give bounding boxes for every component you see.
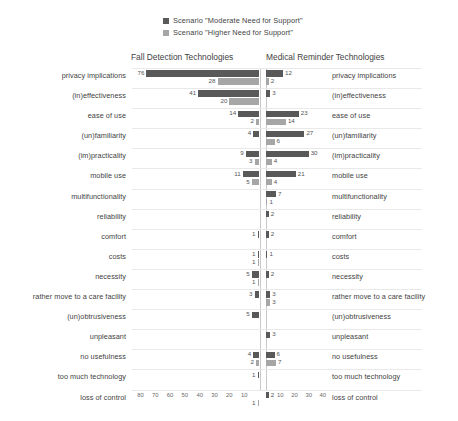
bar-value-moderate: 11 [234,171,240,177]
chart-row: (un)obtrusiveness(un)obtrusiveness5 [0,309,458,329]
bars-medical-reminder: 214 [266,169,330,187]
bar-value-moderate: 1 [269,251,272,257]
x-tick-left: 50 [182,392,189,398]
bar-value-higher: 1 [252,279,255,285]
bar-value-higher: 3 [272,299,275,305]
bar-higher [258,259,259,265]
bar-value-higher: 20 [220,98,227,104]
bar-moderate [266,211,269,217]
category-label-right: (im)practicality [332,151,456,160]
bar-moderate [255,291,259,297]
bars-medical-reminder: 2314 [266,109,330,127]
bar-moderate [266,131,304,137]
category-label-right: costs [332,252,456,261]
bar-moderate [266,231,269,237]
bar-moderate [258,231,259,237]
bar-value-moderate: 9 [240,150,243,156]
bar-higher [266,179,272,185]
bar-value-moderate: 21 [298,171,305,177]
bar-higher [218,78,260,84]
bar-higher [266,159,272,165]
x-tick-left: 20 [226,392,233,398]
legend-label-higher: Scenario "Higher Need for Support" [173,28,293,37]
bar-value-moderate: 1 [252,231,255,237]
category-label-right: rather move to a care facility [332,292,456,301]
category-label-right: multifunctionality [332,192,456,201]
bar-moderate [258,251,259,257]
bars-fall-detection: 7628 [133,69,259,87]
bar-higher [256,119,259,125]
bar-value-moderate: 3 [249,291,252,297]
bar-higher [266,139,275,145]
bars-fall-detection: 11 [133,250,259,268]
plot-area: privacy implicationsprivacy implications… [0,68,458,390]
bar-moderate [146,70,259,76]
bar-value-higher: 4 [274,158,277,164]
bar-moderate [266,271,269,277]
bar-value-moderate: 2 [271,231,274,237]
bar-moderate [266,171,296,177]
bar-value-higher: 2 [271,78,274,84]
bar-moderate [246,151,259,157]
bar-value-moderate: 3 [272,291,275,297]
category-label-left: (in)effectiveness [0,91,126,100]
category-label-right: (un)obtrusiveness [332,312,456,321]
bars-medical-reminder: 3 [266,330,330,348]
x-tick-left: 30 [211,392,218,398]
bar-value-moderate: 6 [277,351,280,357]
panel-title-fall-detection: Fall Detection Technologies [131,52,233,62]
bar-moderate [258,372,259,378]
bars-medical-reminder: 276 [266,129,330,147]
bars-fall-detection [133,330,259,348]
bar-value-higher: 7 [278,359,281,365]
bars-fall-detection: 115 [133,169,259,187]
x-tick-right: 40 [320,392,327,398]
bar-higher [256,360,259,366]
bar-moderate [253,352,259,358]
legend-swatch-higher [163,30,169,36]
bars-fall-detection: 3 [133,290,259,308]
x-tick-right: 30 [305,392,312,398]
category-label-right: (in)effectiveness [332,91,456,100]
bar-moderate [252,312,259,318]
chart-legend: Scenario "Moderate Need for Support" Sce… [163,16,333,37]
bar-higher [255,159,259,165]
bar-value-moderate: 1 [252,251,255,257]
bars-medical-reminder: 1 [266,250,330,268]
category-label-left: ease of use [0,111,126,120]
category-label-right: reliability [332,212,456,221]
bar-higher [258,279,259,285]
chart-row: ease of useease of use1422314 [0,108,458,128]
bar-higher [266,299,270,305]
category-label-right: unpleasant [332,332,456,341]
panel-title-medical-reminder: Medical Reminder Technologies [266,52,385,62]
bar-value-moderate: 4 [248,130,251,136]
category-label-right: privacy implications [332,71,456,80]
legend-label-moderate: Scenario "Moderate Need for Support" [173,16,303,25]
bar-value-higher: 3 [249,158,252,164]
chart-row: costscosts111 [0,249,458,269]
x-tick-left: 60 [167,392,174,398]
bars-medical-reminder: 2 [266,270,330,288]
bars-medical-reminder: 33 [266,290,330,308]
bar-value-moderate: 7 [278,191,281,197]
bar-moderate [266,70,283,76]
bars-fall-detection: 1 [133,230,259,248]
bars-medical-reminder: 122 [266,69,330,87]
bars-medical-reminder [266,370,330,388]
bar-moderate [266,191,276,197]
bars-fall-detection: 51 [133,270,259,288]
x-axis-right: 10203040 [266,392,330,406]
bar-value-higher: 1 [252,259,255,265]
bar-moderate [253,131,259,137]
x-tick-left: 40 [196,392,203,398]
bar-higher [229,98,259,104]
bar-moderate [243,171,259,177]
x-tick-left: 80 [137,392,144,398]
bars-medical-reminder: 71 [266,190,330,208]
category-label-right: mobile use [332,171,456,180]
chart-row: privacy implicationsprivacy implications… [0,68,458,88]
bar-value-moderate: 23 [301,110,308,116]
bar-value-higher: 4 [274,179,277,185]
bars-medical-reminder: 2 [266,210,330,228]
